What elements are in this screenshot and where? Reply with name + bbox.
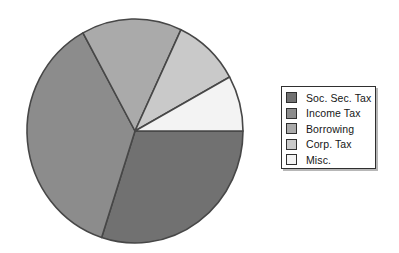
legend-swatch [286, 154, 297, 165]
legend-item: Corp. Tax [286, 137, 371, 153]
legend: Soc. Sec. Tax Income Tax Borrowing Corp.… [281, 86, 376, 169]
legend-label: Borrowing [306, 124, 354, 135]
pie-chart [0, 0, 270, 253]
legend-label: Corp. Tax [306, 139, 352, 150]
legend-item: Income Tax [286, 106, 371, 122]
figure-canvas: { "chart_data": { "type": "pie", "labels… [0, 0, 399, 253]
legend-label: Soc. Sec. Tax [306, 93, 371, 104]
legend-label: Misc. [306, 155, 331, 166]
legend-item: Soc. Sec. Tax [286, 90, 371, 106]
legend-swatch [286, 108, 297, 119]
legend-label: Income Tax [306, 108, 361, 119]
legend-item: Borrowing [286, 121, 371, 137]
legend-swatch [286, 123, 297, 134]
legend-swatch [286, 139, 297, 150]
legend-swatch [286, 92, 297, 103]
legend-item: Misc. [286, 152, 371, 168]
